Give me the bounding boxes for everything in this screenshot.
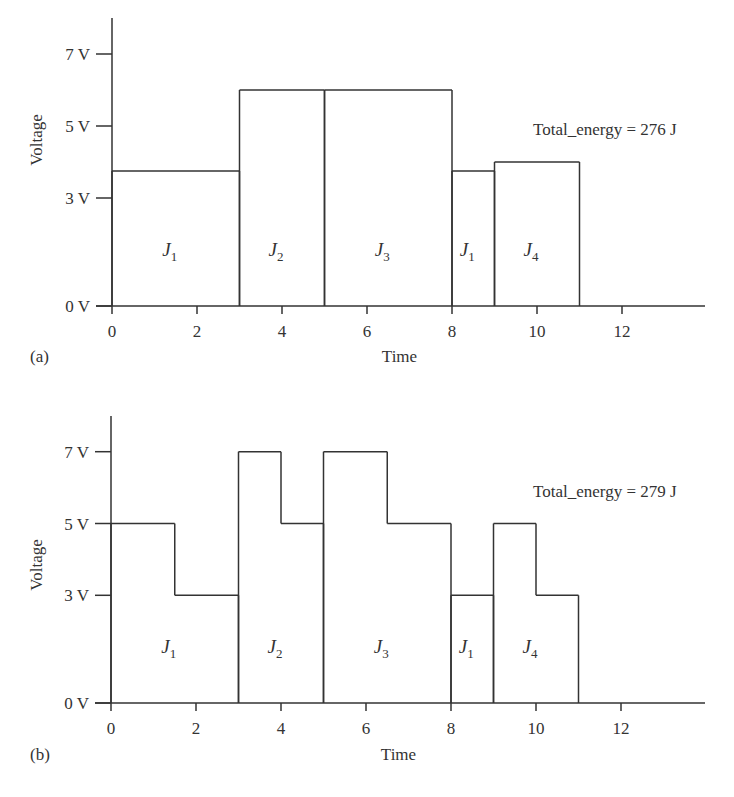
job-label: J3 (374, 636, 389, 661)
job-block-j1: J1 (111, 524, 239, 704)
y-tick-label: 5 V (64, 515, 89, 534)
job-block-j3: J3 (324, 452, 452, 703)
x-tick-label: 12 (613, 719, 630, 738)
chart-svg: 0 V3 V5 V7 V024681012TimeVoltage(a)Total… (0, 0, 734, 797)
y-axis: 0 V3 V5 V7 V (65, 18, 112, 316)
y-axis-label: Voltage (27, 539, 46, 591)
job-block-j1: J1 (451, 595, 494, 703)
x-tick-label: 8 (447, 719, 456, 738)
job-block-j2: J2 (239, 452, 324, 703)
y-axis-label: Voltage (27, 114, 46, 166)
job-label: J4 (523, 636, 538, 661)
panel-label: (a) (30, 347, 49, 366)
y-tick-label: 7 V (65, 45, 90, 64)
x-axis: 024681012 (96, 306, 705, 341)
y-tick-label: 0 V (64, 694, 89, 713)
job-block-j4: J4 (494, 524, 579, 704)
x-tick-label: 6 (362, 719, 371, 738)
job-block-j1: J1 (112, 171, 240, 306)
x-tick-label: 0 (107, 719, 116, 738)
x-tick-label: 6 (363, 322, 372, 341)
chart-panel-a: 0 V3 V5 V7 V024681012TimeVoltage(a)Total… (27, 18, 705, 366)
total-energy-annotation: Total_energy = 279 J (533, 482, 677, 501)
chart-panel-b: 0 V3 V5 V7 V024681012TimeVoltage(b)Total… (27, 416, 705, 764)
x-axis: 024681012 (95, 703, 705, 738)
job-label: J1 (460, 239, 475, 264)
job-block-j1: J1 (452, 171, 495, 306)
y-tick-label: 5 V (65, 117, 90, 136)
x-tick-label: 10 (529, 322, 546, 341)
x-tick-label: 4 (277, 719, 286, 738)
job-label: J2 (268, 636, 283, 661)
x-tick-label: 4 (278, 322, 287, 341)
job-block-j4: J4 (495, 162, 580, 306)
y-tick-label: 3 V (65, 189, 90, 208)
x-tick-label: 0 (108, 322, 117, 341)
x-axis-label: Time (381, 745, 416, 764)
job-label: J1 (161, 636, 176, 661)
job-block-j3: J3 (325, 90, 453, 306)
x-tick-label: 12 (614, 322, 631, 341)
job-label: J1 (162, 239, 177, 264)
y-tick-label: 3 V (64, 586, 89, 605)
y-tick-label: 0 V (65, 297, 90, 316)
job-label: J4 (524, 239, 539, 264)
y-tick-label: 7 V (64, 443, 89, 462)
job-label: J3 (375, 239, 390, 264)
y-axis: 0 V3 V5 V7 V (64, 416, 111, 713)
job-label: J2 (269, 239, 284, 264)
job-label: J1 (459, 636, 474, 661)
panel-label: (b) (30, 745, 50, 764)
job-block-j2: J2 (240, 90, 325, 306)
x-axis-label: Time (382, 347, 417, 366)
total-energy-annotation: Total_energy = 276 J (533, 120, 677, 139)
x-tick-label: 2 (193, 322, 202, 341)
x-tick-label: 8 (448, 322, 457, 341)
x-tick-label: 10 (528, 719, 545, 738)
x-tick-label: 2 (192, 719, 201, 738)
